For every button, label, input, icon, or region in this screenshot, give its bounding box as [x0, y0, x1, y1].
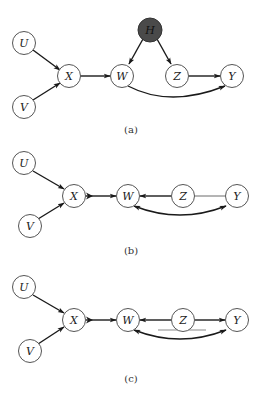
node-label: Z: [178, 190, 187, 203]
node-y: Y: [226, 185, 249, 208]
node-y: Y: [226, 309, 249, 332]
node-y: Y: [221, 65, 244, 88]
edge-v-x: [38, 203, 64, 219]
node-label: W: [122, 314, 135, 327]
node-label: V: [26, 345, 35, 358]
node-x: X: [63, 185, 86, 208]
node-label: U: [19, 37, 29, 50]
edge-h-w: [129, 39, 143, 64]
node-v: V: [13, 96, 36, 119]
edge-u-x: [33, 171, 64, 189]
edge-v-x: [33, 83, 60, 100]
node-w: W: [117, 185, 140, 208]
edge-u-x: [33, 50, 60, 70]
edge-v-x: [38, 327, 64, 344]
node-w: W: [111, 65, 134, 88]
node-label: U: [19, 157, 29, 170]
node-label: H: [144, 24, 155, 37]
node-label: X: [69, 314, 79, 327]
node-u: U: [13, 32, 36, 55]
node-label: W: [116, 70, 129, 83]
node-x: X: [58, 65, 81, 88]
node-label: Z: [178, 314, 187, 327]
panel-caption: (a): [124, 124, 138, 135]
node-label: W: [122, 190, 135, 203]
node-label: V: [26, 220, 35, 233]
node-x: X: [63, 309, 86, 332]
node-w: W: [117, 309, 140, 332]
node-h-latent: H: [138, 18, 162, 42]
node-label: Z: [172, 70, 181, 83]
node-u: U: [13, 276, 36, 299]
node-z: Z: [172, 309, 195, 332]
panel-a: U V X W H Z Y (a): [13, 18, 244, 135]
causal-graph-figure: U V X W H Z Y (a): [0, 0, 262, 400]
edge-h-z: [157, 39, 171, 64]
node-v: V: [19, 215, 42, 238]
edge-u-x: [33, 295, 64, 313]
panel-b: U V X W Z Y (b): [13, 152, 249, 257]
node-v: V: [19, 340, 42, 363]
node-z: Z: [166, 65, 189, 88]
node-z: Z: [172, 185, 195, 208]
panel-caption: (b): [124, 245, 138, 256]
node-label: V: [20, 101, 29, 114]
node-u: U: [13, 152, 36, 175]
panel-c: U V X W Z Y (c): [13, 276, 249, 385]
node-label: U: [19, 281, 29, 294]
node-label: X: [69, 190, 79, 203]
panel-caption: (c): [124, 373, 138, 384]
node-label: X: [64, 70, 74, 83]
